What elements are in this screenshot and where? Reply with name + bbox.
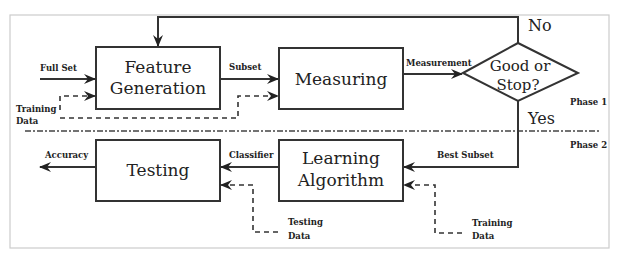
decision-line1: Good or — [490, 57, 551, 75]
yes-label: Yes — [527, 109, 555, 128]
training-data-bottom-label-2: Data — [472, 231, 495, 241]
measuring-line1: Measuring — [295, 69, 388, 89]
subset-label: Subset — [229, 62, 261, 72]
testing-data-label-1: Testing — [288, 217, 323, 227]
decision-line2: Stop? — [497, 76, 540, 94]
training-data-bottom-label-1: Training — [472, 218, 513, 228]
no-label: No — [528, 16, 552, 35]
full-set-label: Full Set — [40, 63, 77, 73]
training-data-top-label-2: Data — [16, 116, 39, 126]
testing-line1: Testing — [127, 160, 190, 180]
testing-data-label-2: Data — [288, 231, 311, 241]
measurement-label: Measurement — [406, 58, 472, 68]
training-data-top-label-1: Training — [16, 104, 57, 114]
testing-node: Testing — [96, 140, 220, 201]
learning-algorithm-line1: Learning — [302, 148, 380, 168]
phase2-label: Phase 2 — [570, 140, 607, 150]
accuracy-label: Accuracy — [44, 150, 89, 160]
feature-generation-node: Feature Generation — [96, 47, 220, 109]
best-subset-label: Best Subset — [437, 150, 494, 160]
learning-algorithm-node: Learning Algorithm — [279, 140, 403, 201]
feature-generation-line1: Feature — [124, 57, 191, 77]
learning-algorithm-line2: Algorithm — [297, 170, 384, 190]
phase1-label: Phase 1 — [570, 97, 607, 107]
feature-selection-diagram: Phase 1 Phase 2 No Feature Generation Fu… — [0, 0, 621, 260]
classifier-label: Classifier — [229, 150, 274, 160]
measuring-node: Measuring — [279, 48, 403, 109]
feature-generation-line2: Generation — [110, 78, 206, 98]
